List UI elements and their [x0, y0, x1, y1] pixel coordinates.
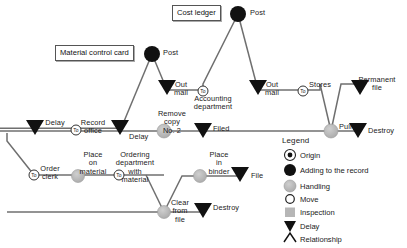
node-move-stores[interactable]: To — [298, 86, 308, 96]
svg-text:To: To — [300, 88, 306, 94]
label-permanent-file: Permanent file — [358, 76, 395, 93]
node-adding-material-card[interactable] — [144, 46, 160, 62]
svg-text:To: To — [73, 127, 79, 133]
label-destroy-bottom: Destroy — [213, 204, 239, 212]
node-handling-pull[interactable] — [324, 124, 338, 138]
label-out-mail-2: Out mail — [265, 81, 279, 98]
legend-label-relationship: Relationship — [300, 235, 342, 244]
line-left-branch — [7, 133, 34, 175]
node-delay-destroy-bottom[interactable] — [194, 203, 212, 218]
label-pull: Pull — [339, 123, 352, 131]
label-accounting-department: Accounting department — [194, 95, 232, 112]
label-record-office: Record office — [81, 119, 105, 136]
node-delay-file[interactable] — [231, 167, 249, 182]
label-post-cost-ledger: Post — [250, 9, 265, 17]
svg-text:To: To — [31, 172, 37, 178]
node-move-order-clerk[interactable]: To — [29, 170, 39, 180]
legend-symbols — [284, 150, 296, 243]
label-place-on-material: Place on material — [79, 151, 106, 176]
legend-inspection-icon — [285, 208, 295, 218]
legend-relationship-icon — [284, 233, 296, 242]
label-delay-left: Delay — [45, 119, 64, 127]
label-post-material-card: Post — [163, 49, 178, 57]
label-delay-record-office: Delay — [129, 133, 148, 141]
label-filed: Filed — [213, 125, 230, 133]
label-remove-copy: Remove copy No. 2 — [158, 110, 186, 135]
label-stores: Stores — [309, 81, 331, 89]
legend-origin-icon — [285, 150, 296, 161]
line-record-to-post-material — [120, 54, 152, 131]
node-handling-clear-from-file[interactable] — [158, 206, 171, 219]
label-order-clerk: Order clerk — [40, 165, 59, 182]
legend-label-inspection: Inspection — [300, 208, 335, 217]
node-handling-place-in-binder[interactable] — [194, 170, 207, 183]
line-cost-ledger-to-outmail2 — [238, 14, 258, 90]
legend-handling-icon — [284, 180, 296, 192]
legend-adding-icon — [284, 164, 296, 176]
legend-delay-icon — [284, 221, 296, 232]
legend-label-origin: Origin — [300, 151, 320, 160]
box-cost-ledger[interactable]: Cost ledger — [172, 5, 221, 21]
node-move-record-office[interactable]: To — [71, 125, 81, 135]
label-out-mail-1: Out mail — [174, 81, 188, 98]
legend-label-handling: Handling — [300, 182, 330, 191]
label-place-in-binder: Place in binder — [208, 151, 229, 176]
label-destroy-top: Destroy — [368, 127, 394, 135]
label-file: File — [251, 172, 263, 180]
box-material-control-card[interactable]: Material control card — [55, 45, 134, 61]
legend-label-delay: Delay — [300, 222, 319, 231]
label-ordering-department: Ordering department with material — [116, 151, 154, 185]
legend-label-adding: Adding to the record — [300, 166, 368, 175]
node-adding-cost-ledger[interactable] — [230, 6, 246, 22]
diagram-canvas: To To To To To — [0, 0, 407, 248]
label-clear-from-file: Clear from file — [171, 199, 189, 224]
line-move-to-cost-ledger — [203, 14, 238, 90]
legend-label-move: Move — [300, 195, 319, 204]
legend-move-icon — [286, 195, 295, 204]
legend-title: Legend — [282, 137, 309, 145]
